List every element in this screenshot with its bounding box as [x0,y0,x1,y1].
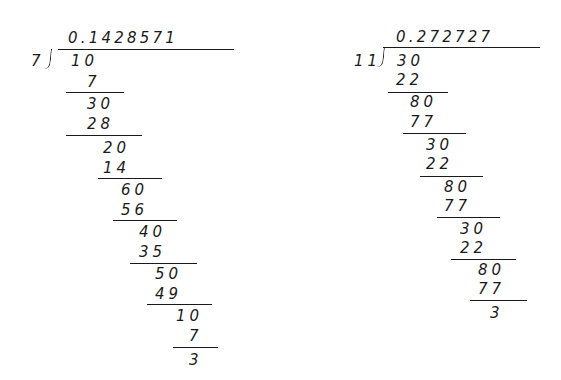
long-division-three-elevenths: 0.272727 11 30 22807730228077302280773 [0,0,561,380]
step-number: 80 [444,179,471,195]
division-overline [383,47,540,48]
step-number: 22 [426,156,453,172]
step-number: 30 [460,221,487,237]
subtraction-line [470,300,527,301]
step-number: 80 [478,262,505,278]
step-number: 22 [396,72,423,88]
step-number: 30 [426,137,453,153]
step-number: 77 [478,281,505,297]
division-bracket [374,47,385,67]
subtraction-line [388,92,448,93]
subtraction-line [437,217,500,218]
step-number: 77 [444,198,471,214]
subtraction-line [403,133,466,134]
step-number: 22 [460,240,487,256]
step-number: 3 [490,305,504,321]
step-number: 77 [410,114,437,130]
step-number: 80 [410,94,437,110]
subtraction-line [451,259,516,260]
subtraction-line [420,176,483,177]
dividend: 30 [397,53,424,69]
quotient: 0.272727 [396,29,493,45]
